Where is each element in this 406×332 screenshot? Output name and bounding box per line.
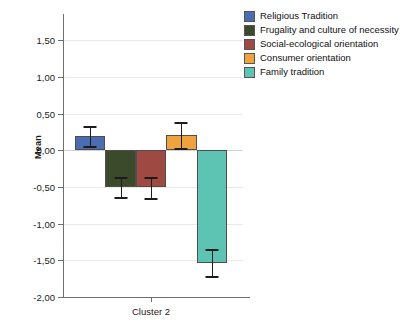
gridline [63,77,243,78]
legend-swatch-icon [244,39,255,50]
x-axis-tick-mark [151,297,152,302]
error-bar-cap [175,122,188,124]
error-bar-cap [114,177,127,179]
y-axis-line [63,14,64,297]
gridline [63,40,243,41]
y-axis-tick-label: 0,00 [37,145,56,156]
bar-chart: Mean 1,501,000,500,00-0,50-1,00-1,50-2,0… [0,0,406,332]
y-axis-tick-label: -1,00 [33,218,55,229]
error-bar-cap [205,249,218,251]
gridline [63,114,243,115]
legend-item-label: Frugality and culture of necessity [260,24,399,36]
error-bar-cap [84,126,97,128]
legend-item-label: Consumer orientation [260,52,351,64]
legend-item-label: Social-ecological orientation [260,38,378,50]
error-bar [181,122,182,148]
legend-swatch-icon [244,67,255,78]
legend-item[interactable]: Religious Tradition [244,10,404,22]
error-bar [90,126,91,146]
y-axis-tick-label: 1,00 [37,72,56,83]
legend-swatch-icon [244,53,255,64]
error-bar-cap [145,198,158,200]
error-bar-cap [205,276,218,278]
legend-swatch-icon [244,11,255,22]
error-bar-cap [84,146,97,148]
legend-item[interactable]: Social-ecological orientation [244,38,404,50]
y-axis-tick-label: -1,50 [33,255,55,266]
x-axis-tick-label: Cluster 2 [132,306,170,317]
legend-item[interactable]: Family tradition [244,66,404,78]
legend-item[interactable]: Frugality and culture of necessity [244,24,404,36]
y-axis-tick-label: 1,50 [37,35,56,46]
plot-area: 1,501,000,500,00-0,50-1,00-1,50-2,00 Clu… [63,22,243,297]
error-bar-cap [175,148,188,150]
error-bar [212,249,213,276]
y-axis-tick-label: -0,50 [33,182,55,193]
y-axis-tick-label: -2,00 [33,292,55,303]
legend-item-label: Family tradition [260,66,324,78]
error-bar-cap [114,197,127,199]
error-bar-cap [145,177,158,179]
legend-item[interactable]: Consumer orientation [244,52,404,64]
error-bar [121,177,122,197]
x-axis-line [63,297,250,298]
bar [197,150,227,262]
error-bar [151,177,152,198]
legend-item-label: Religious Tradition [260,10,338,22]
legend-swatch-icon [244,25,255,36]
y-axis-tick-label: 0,50 [37,108,56,119]
legend: Religious TraditionFrugality and culture… [244,10,404,80]
